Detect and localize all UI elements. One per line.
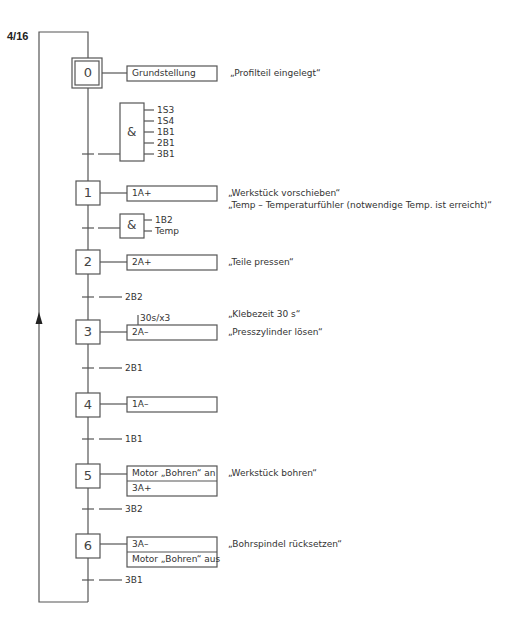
step-4-action: 1A–	[132, 399, 148, 410]
step-3-number: 3	[75, 320, 101, 344]
transition-1B1: 1B1	[125, 434, 143, 445]
step-6-comment: „Bohrspindel rücksetzen“	[228, 539, 342, 550]
step-4-number: 4	[75, 393, 101, 417]
step-1-comment-1: „Werkstück vorschieben“	[228, 188, 340, 199]
and-0-input-5: 3B1	[157, 149, 175, 160]
step-1-comment-2: „Temp – Temperaturfühler (notwendige Tem…	[228, 200, 492, 211]
step-5-action-2: 3A+	[132, 483, 151, 494]
step-6-action-2: Motor „Bohren“ aus	[132, 554, 220, 565]
step-3-timer: 30s/x3	[140, 313, 170, 324]
step-3-comment-1: „Klebezeit 30 s“	[228, 309, 300, 320]
transition-3B2: 3B2	[125, 504, 143, 515]
step-5-comment: „Werkstück bohren“	[228, 468, 317, 479]
step-1-number: 1	[75, 181, 101, 205]
transition-2B1: 2B1	[125, 363, 143, 374]
step-5-number: 5	[75, 464, 101, 488]
step-6-action-1: 3A–	[132, 539, 148, 550]
step-2-number: 2	[75, 250, 101, 274]
and-1-input-1: 1B2	[155, 215, 173, 226]
step-2-action: 2A+	[132, 257, 151, 268]
and-0-input-4: 2B1	[157, 138, 175, 149]
step-0-number: 0	[75, 61, 101, 85]
step-0-action: Grundstellung	[132, 68, 196, 79]
transition-3B1: 3B1	[125, 575, 143, 586]
return-loop-line	[39, 32, 88, 602]
transition-2B2: 2B2	[125, 292, 143, 303]
and-0-input-2: 1S4	[157, 116, 174, 127]
step-1-action: 1A+	[132, 188, 151, 199]
arrow-up-icon	[36, 312, 43, 324]
and-block-1-symbol: &	[127, 218, 136, 232]
and-block-0-symbol: &	[127, 125, 136, 139]
step-6-number: 6	[75, 534, 101, 558]
step-3-comment-2: „Presszylinder lösen“	[228, 327, 323, 338]
and-0-input-1: 1S3	[157, 105, 174, 116]
and-0-input-3: 1B1	[157, 127, 175, 138]
page-number: 4/16	[7, 30, 28, 42]
step-3-action: 2A–	[132, 327, 148, 338]
step-0-comment: „Profilteil eingelegt“	[230, 68, 321, 79]
and-1-input-2: Temp	[155, 226, 179, 237]
step-2-comment: „Teile pressen“	[228, 257, 294, 268]
step-5-action-1: Motor „Bohren“ an	[132, 468, 215, 479]
